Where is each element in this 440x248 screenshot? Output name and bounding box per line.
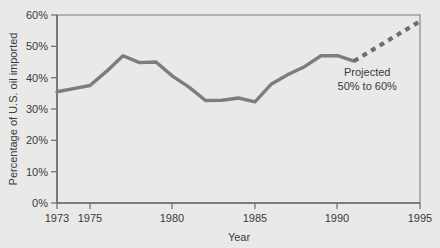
annotation-line-1: Projected — [344, 66, 390, 78]
x-tick-label-1973: 1973 — [45, 212, 69, 224]
y-tick-label-30: 30% — [26, 103, 48, 115]
y-tick-label-60: 60% — [26, 9, 48, 21]
chart-background — [0, 0, 440, 248]
x-axis-title: Year — [228, 231, 251, 243]
y-tick-label-20: 20% — [26, 134, 48, 146]
x-tick-label-1990: 1990 — [325, 212, 349, 224]
x-tick-label-1995: 1995 — [408, 212, 432, 224]
x-tick-label-1985: 1985 — [243, 212, 267, 224]
chart-canvas: 0% 10% 20% 30% 40% 50% 60% 1973 1975 198… — [0, 0, 440, 248]
annotation-line-2: 50% to 60% — [338, 80, 398, 92]
y-tick-label-0: 0% — [32, 197, 48, 209]
y-tick-label-10: 10% — [26, 166, 48, 178]
y-tick-label-50: 50% — [26, 40, 48, 52]
x-tick-label-1980: 1980 — [160, 212, 184, 224]
oil-import-chart: 0% 10% 20% 30% 40% 50% 60% 1973 1975 198… — [0, 0, 440, 248]
y-tick-label-40: 40% — [26, 72, 48, 84]
y-axis-title: Percentage of U.S. oil imported — [7, 33, 19, 186]
x-tick-label-1975: 1975 — [78, 212, 102, 224]
